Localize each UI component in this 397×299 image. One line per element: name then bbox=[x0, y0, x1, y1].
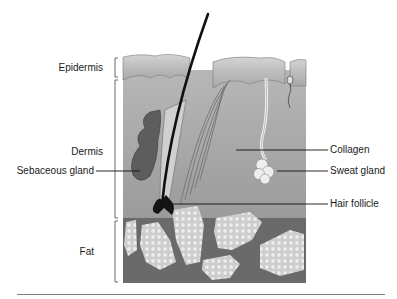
label-hair-follicle: Hair follicle bbox=[330, 198, 379, 210]
label-sweat-gland: Sweat gland bbox=[330, 165, 385, 177]
label-epidermis: Epidermis bbox=[59, 62, 103, 74]
label-fat: Fat bbox=[80, 246, 94, 258]
label-collagen: Collagen bbox=[330, 144, 369, 156]
bottom-divider bbox=[17, 294, 385, 295]
layer-brackets bbox=[115, 58, 118, 282]
label-dermis: Dermis bbox=[71, 146, 103, 158]
label-sebaceous-gland: Sebaceous gland bbox=[17, 165, 94, 177]
